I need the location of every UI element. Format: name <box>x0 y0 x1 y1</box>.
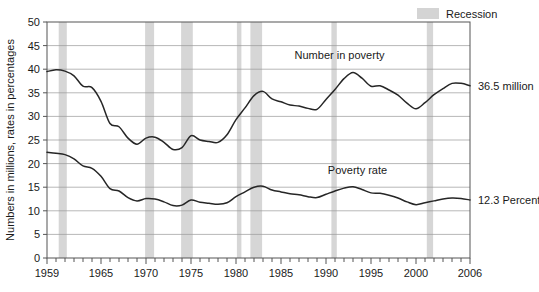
y-axis-tick-label: 25 <box>28 134 40 146</box>
chart-canvas: 05101520253035404550 1959196519701975198… <box>0 0 539 292</box>
y-axis-title: Numbers in millions, rates in percentage… <box>4 39 16 241</box>
recession-legend-swatch <box>417 8 439 19</box>
y-axis-tick-label: 50 <box>28 16 40 28</box>
number-in-poverty-end-label: 36.5 million <box>478 80 534 92</box>
x-axis-tick-label: 1980 <box>224 267 248 279</box>
y-axis-tick-label: 30 <box>28 110 40 122</box>
x-axis-tick-label: 2000 <box>404 267 428 279</box>
poverty-chart: 05101520253035404550 1959196519701975198… <box>0 0 539 292</box>
x-axis-tick-label: 1970 <box>134 267 158 279</box>
x-axis-tick-label: 2006 <box>458 267 482 279</box>
number-in-poverty-label: Number in poverty <box>295 49 385 61</box>
recession-legend-label: Recession <box>446 8 497 20</box>
y-axis-tick-label: 0 <box>34 252 40 264</box>
x-axis-tick-label: 1959 <box>35 267 59 279</box>
poverty-rate-end-label: 12.3 Percent <box>478 194 539 206</box>
y-axis-tick-label: 10 <box>28 205 40 217</box>
y-axis-tick-label: 15 <box>28 181 40 193</box>
y-axis-tick-label: 40 <box>28 63 40 75</box>
x-axis-tick-label: 1995 <box>359 267 383 279</box>
y-axis-tick-label: 45 <box>28 40 40 52</box>
y-axis-tick-label: 35 <box>28 87 40 99</box>
y-axis-tick-label: 5 <box>34 228 40 240</box>
poverty-rate-label: Poverty rate <box>328 164 387 176</box>
chart-background <box>0 0 539 292</box>
x-axis-tick-label: 1985 <box>269 267 293 279</box>
y-axis-tick-label: 20 <box>28 158 40 170</box>
x-axis-tick-label: 1990 <box>314 267 338 279</box>
x-axis-tick-label: 1975 <box>179 267 203 279</box>
x-axis-tick-label: 1965 <box>89 267 113 279</box>
